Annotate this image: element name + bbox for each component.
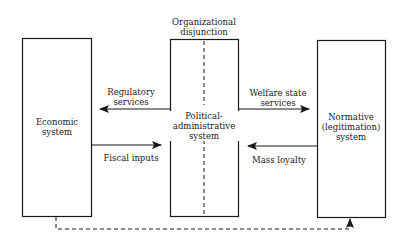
dashed-feedback-arrow bbox=[56, 217, 350, 229]
political-system-label: Political- administrative system bbox=[165, 111, 243, 141]
regulatory-services-label: Regulatory services bbox=[96, 87, 166, 107]
organizational-disjunction-label: Organizational disjunction bbox=[154, 17, 254, 37]
welfare-state-services-label: Welfare state services bbox=[240, 88, 316, 108]
fiscal-inputs-label: Fiscal inputs bbox=[96, 153, 166, 163]
mass-loyalty-label: Mass loyalty bbox=[244, 155, 314, 165]
economic-system-label: Economic system bbox=[22, 117, 92, 137]
normative-system-label: Normative (legitimation) system bbox=[312, 112, 390, 142]
